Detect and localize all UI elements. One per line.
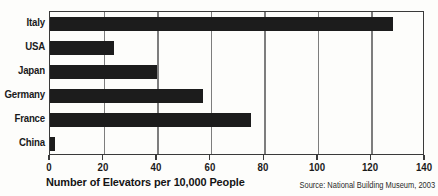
x-tick-label: 40 bbox=[151, 161, 162, 173]
x-tick bbox=[209, 155, 211, 160]
x-tick-label: 100 bbox=[309, 161, 325, 173]
bar-row bbox=[50, 41, 425, 55]
x-tick-label: 0 bbox=[46, 161, 51, 173]
gridline bbox=[318, 12, 320, 154]
bar-china bbox=[50, 137, 55, 151]
plot-area bbox=[49, 11, 424, 155]
gridline bbox=[211, 12, 213, 154]
bar-japan bbox=[50, 65, 157, 79]
bar-france bbox=[50, 113, 251, 127]
category-label-usa: USA bbox=[4, 41, 45, 52]
category-label-germany: Germany bbox=[4, 89, 45, 100]
gridline bbox=[157, 12, 159, 154]
category-label-japan: Japan bbox=[4, 65, 45, 76]
x-tick bbox=[102, 155, 104, 160]
x-tick bbox=[370, 155, 372, 160]
category-label-china: China bbox=[4, 137, 45, 148]
gridline bbox=[371, 12, 373, 154]
bar-row bbox=[50, 17, 425, 31]
bar-row bbox=[50, 89, 425, 103]
x-tick bbox=[316, 155, 318, 160]
category-label-italy: Italy bbox=[4, 17, 45, 28]
bar-row bbox=[50, 137, 425, 151]
x-tick-label: 20 bbox=[97, 161, 108, 173]
bar-usa bbox=[50, 41, 114, 55]
x-tick bbox=[48, 155, 50, 160]
bar-germany bbox=[50, 89, 203, 103]
x-axis-title: Number of Elevators per 10,000 People bbox=[46, 176, 245, 188]
category-axis: ItalyUSAJapanGermanyFranceChina bbox=[0, 11, 45, 155]
x-tick-label: 120 bbox=[362, 161, 378, 173]
x-tick-label: 60 bbox=[204, 161, 215, 173]
value-axis: 020406080100120140 bbox=[49, 155, 424, 175]
category-label-france: France bbox=[4, 113, 45, 124]
x-tick-label: 80 bbox=[258, 161, 269, 173]
x-tick bbox=[155, 155, 157, 160]
bar-row bbox=[50, 65, 425, 79]
bar-row bbox=[50, 113, 425, 127]
source-note: Source: National Building Museum, 2003 bbox=[299, 180, 435, 190]
gridline bbox=[264, 12, 266, 154]
x-tick bbox=[423, 155, 425, 160]
gridline bbox=[104, 12, 106, 154]
x-tick-label: 140 bbox=[416, 161, 432, 173]
bar-italy bbox=[50, 17, 393, 31]
x-tick bbox=[263, 155, 265, 160]
bar-chart: ItalyUSAJapanGermanyFranceChina 02040608… bbox=[0, 0, 438, 196]
